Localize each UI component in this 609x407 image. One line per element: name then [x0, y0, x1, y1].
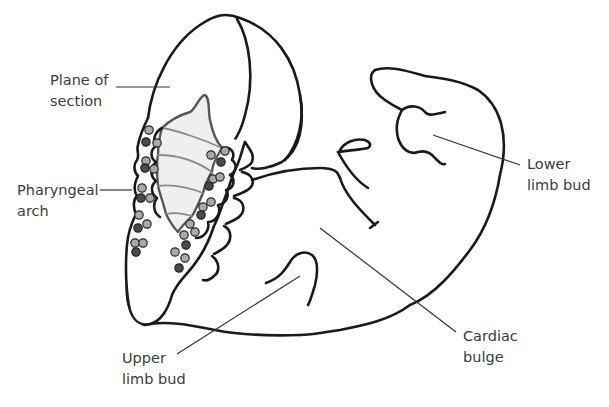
leader-lower-limb-bud [433, 135, 520, 165]
label-lower-limb-bud: Lower limb bud [527, 154, 591, 196]
label-line: Plane of [50, 70, 108, 91]
label-cardiac-bulge: Cardiac bulge [463, 326, 518, 368]
label-line: bulge [463, 347, 518, 368]
label-line: limb bud [122, 369, 186, 390]
label-line: Cardiac [463, 326, 518, 347]
label-plane-of-section: Plane of section [50, 70, 108, 112]
label-line: Pharyngeal [17, 180, 99, 201]
pharyngeal-region [126, 95, 253, 324]
label-upper-limb-bud: Upper limb bud [122, 348, 186, 390]
label-line: limb bud [527, 175, 591, 196]
label-line: Lower [527, 154, 591, 175]
label-line: arch [17, 201, 99, 222]
label-pharyngeal-arch: Pharyngeal arch [17, 180, 99, 222]
label-line: section [50, 91, 108, 112]
label-line: Upper [122, 348, 186, 369]
leader-upper-limb-bud [177, 276, 300, 354]
upper-limb-bud-shape [266, 253, 317, 305]
